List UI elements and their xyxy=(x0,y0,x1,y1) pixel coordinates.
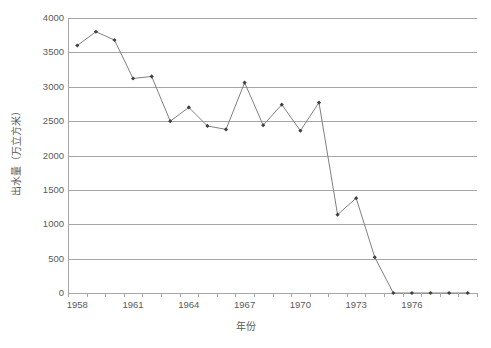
x-axis-tick-labels: 1958196119641967197019731976 xyxy=(68,299,477,313)
x-axis-tick xyxy=(403,293,404,297)
x-axis-tick-marks xyxy=(68,293,477,298)
y-axis-tick-label: 500 xyxy=(26,254,64,264)
y-axis-tick-labels: 05001000150020002500300035004000 xyxy=(26,0,64,300)
x-axis-tick xyxy=(347,293,348,297)
x-axis-tick xyxy=(273,293,274,297)
y-axis-tick-label: 3000 xyxy=(26,82,64,92)
x-axis-tick-label: 1973 xyxy=(336,299,376,311)
data-point-marker[interactable] xyxy=(131,76,135,80)
x-axis-tick xyxy=(384,293,385,297)
x-axis-tick xyxy=(68,293,69,297)
x-axis-tick xyxy=(458,293,459,297)
x-axis-tick xyxy=(87,293,88,297)
x-axis-tick xyxy=(142,293,143,297)
data-point-marker[interactable] xyxy=(373,255,377,259)
data-point-marker[interactable] xyxy=(112,38,116,42)
x-axis-tick-label: 1961 xyxy=(113,299,153,311)
x-axis-tick xyxy=(440,293,441,297)
y-axis-tick-label: 2500 xyxy=(26,116,64,126)
y-axis-tick-label: 0 xyxy=(26,288,64,298)
data-point-marker[interactable] xyxy=(224,127,228,131)
series-line xyxy=(77,32,467,293)
x-axis-tick xyxy=(124,293,125,297)
x-axis-tick xyxy=(328,293,329,297)
x-axis-tick-label: 1958 xyxy=(57,299,97,311)
y-axis-tick-label: 1500 xyxy=(26,185,64,195)
y-axis-title-text: 出水量（万立方米） xyxy=(8,105,23,195)
y-axis-tick-label: 4000 xyxy=(26,13,64,23)
y-axis-tick-label: 3500 xyxy=(26,47,64,57)
x-axis-tick xyxy=(161,293,162,297)
x-axis-tick-label: 1967 xyxy=(225,299,265,311)
x-axis-tick-label: 1964 xyxy=(169,299,209,311)
x-axis-tick xyxy=(217,293,218,297)
x-axis-tick xyxy=(235,293,236,297)
line-chart: 出水量（万立方米） 050010001500200025003000350040… xyxy=(0,0,491,348)
x-axis-tick xyxy=(310,293,311,297)
x-axis-tick xyxy=(421,293,422,297)
plot-area xyxy=(68,18,477,293)
x-axis-tick xyxy=(365,293,366,297)
x-axis-tick xyxy=(198,293,199,297)
x-axis-title: 年份 xyxy=(0,318,491,333)
x-axis-tick xyxy=(477,293,478,297)
series-line-group xyxy=(68,18,477,293)
data-point-marker[interactable] xyxy=(243,81,247,85)
y-axis-tick-label: 2000 xyxy=(26,151,64,161)
x-axis-tick xyxy=(291,293,292,297)
x-axis-tick xyxy=(105,293,106,297)
x-axis-tick xyxy=(254,293,255,297)
y-axis-tick-label: 1000 xyxy=(26,219,64,229)
data-point-marker[interactable] xyxy=(150,74,154,78)
x-axis-tick-label: 1970 xyxy=(280,299,320,311)
x-axis-tick xyxy=(180,293,181,297)
x-axis-tick-label: 1976 xyxy=(392,299,432,311)
